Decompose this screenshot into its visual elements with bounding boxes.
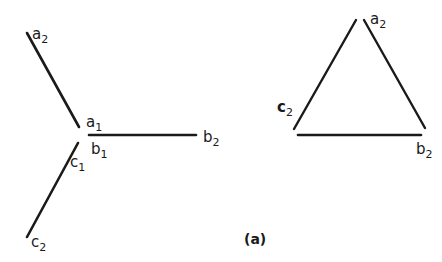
triangle-label-a2: a2 [370, 10, 386, 31]
triangle-side-ca [294, 20, 356, 129]
star-configuration: a2 a1 b1 c1 b2 c2 [27, 25, 220, 254]
star-label-b1: b1 [91, 140, 108, 161]
star-label-c2: c2 [31, 233, 46, 254]
triangle-side-ab [364, 20, 425, 128]
triangle-label-c2: c2 [277, 98, 293, 119]
diagram-canvas: a2 a1 b1 c1 b2 c2 a2 c2 b2 (a) [0, 0, 442, 262]
delta-configuration: a2 c2 b2 [277, 10, 433, 161]
figure-caption: (a) [244, 231, 266, 247]
star-label-a1: a1 [86, 113, 102, 134]
star-branch-a [27, 33, 79, 127]
star-label-c1: c1 [70, 153, 85, 174]
triangle-label-b2: b2 [416, 140, 433, 161]
star-label-b2: b2 [203, 128, 220, 149]
star-label-a2: a2 [32, 25, 48, 46]
